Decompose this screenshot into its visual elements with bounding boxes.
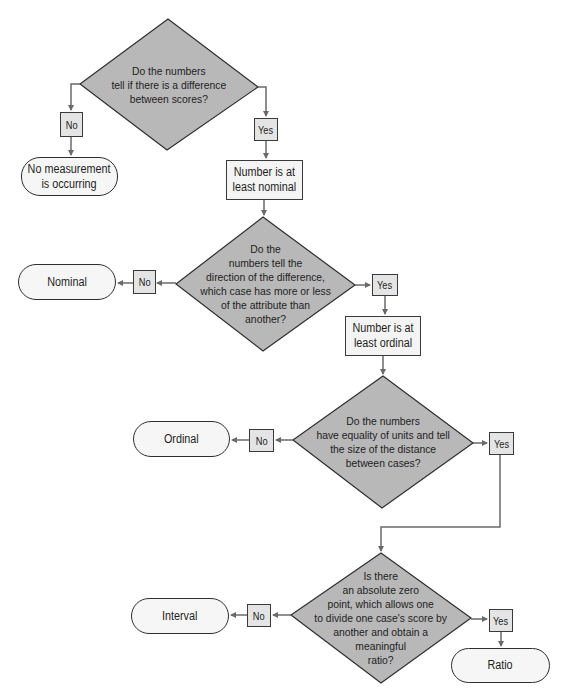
decision-3-text: Do the numbers have equality of units an… xyxy=(316,414,449,470)
branch-label-no-4: No xyxy=(247,604,271,627)
no-label-text: No xyxy=(253,610,265,622)
terminal-interval: Interval xyxy=(131,598,229,634)
terminal-ratio-text: Ratio xyxy=(488,658,513,673)
branch-label-yes-3: Yes xyxy=(489,432,514,455)
terminal-ratio: Ratio xyxy=(451,648,550,683)
yes-label-text: Yes xyxy=(377,279,392,291)
branch-label-no-1: No xyxy=(60,112,83,137)
branch-label-no-2: No xyxy=(133,270,156,294)
decision-3: Do the numbers have equality of units an… xyxy=(293,376,473,508)
terminal-interval-text: Interval xyxy=(162,609,197,624)
branch-label-yes-4: Yes xyxy=(489,609,513,632)
terminal-nominal-text: Nominal xyxy=(47,275,87,290)
no-label-text: No xyxy=(139,276,151,288)
decision-4: Is there an absolute zero point, which a… xyxy=(291,553,471,683)
decision-1-text: Do the numbers tell if there is a differ… xyxy=(112,64,227,106)
yes-label-text: Yes xyxy=(494,438,509,450)
decision-2: Do the numbers tell the direction of the… xyxy=(176,217,355,351)
process-box-ordinal: Number is at least ordinal xyxy=(345,316,421,356)
terminal-no-measurement-text: No measurement is occurring xyxy=(28,162,111,192)
terminal-ordinal-text: Ordinal xyxy=(164,432,199,447)
decision-4-text: Is there an absolute zero point, which a… xyxy=(315,569,448,667)
decision-2-text: Do the numbers tell the direction of the… xyxy=(200,242,331,326)
branch-label-no-3: No xyxy=(249,429,274,452)
process-box-nominal: Number is at least nominal xyxy=(226,160,303,200)
yes-label-text: Yes xyxy=(493,615,508,627)
decision-1: Do the numbers tell if there is a differ… xyxy=(80,19,258,150)
branch-label-yes-2: Yes xyxy=(372,274,398,296)
terminal-no-measurement: No measurement is occurring xyxy=(21,157,118,196)
terminal-ordinal: Ordinal xyxy=(133,421,230,457)
branch-label-yes-1: Yes xyxy=(254,118,278,141)
process-box-nominal-text: Number is at least nominal xyxy=(233,165,297,195)
process-box-ordinal-text: Number is at least ordinal xyxy=(352,321,413,351)
no-label-text: No xyxy=(66,119,78,131)
yes-label-text: Yes xyxy=(258,124,273,136)
no-label-text: No xyxy=(256,435,268,447)
terminal-nominal: Nominal xyxy=(18,264,116,300)
